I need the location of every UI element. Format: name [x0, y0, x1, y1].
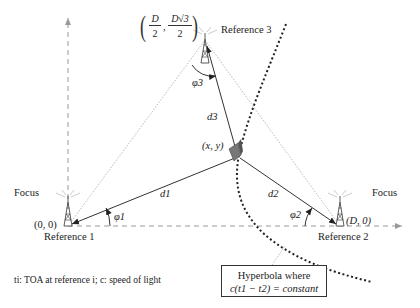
reference-1-coord: (0, 0)	[34, 220, 57, 231]
paren-right: )	[192, 11, 198, 41]
angle-phi2-label: φ2	[290, 210, 301, 221]
reference-3-label: Reference 3	[221, 25, 271, 36]
diagram-canvas	[0, 0, 420, 308]
focus-label-right: Focus	[372, 188, 397, 199]
mobile-device-icon	[229, 139, 243, 161]
distance-d3-label: d3	[207, 112, 218, 123]
angle-phi3-label: φ3	[192, 78, 203, 89]
distance-d3-line	[207, 46, 236, 150]
distance-d2-label: d2	[268, 189, 279, 200]
distance-d1-label: d1	[160, 189, 171, 200]
distance-d1-line	[72, 158, 235, 224]
fraction-bar	[168, 25, 192, 26]
hyperbola-caption-line1: Hyperbola where	[222, 269, 326, 282]
mobile-position-label: (x, y)	[202, 141, 224, 152]
paren-left: (	[140, 11, 146, 41]
angle-phi1-label: φ1	[114, 212, 125, 223]
ref3-y-denominator: 2	[167, 28, 193, 39]
focus-label-left: Focus	[14, 188, 39, 199]
fraction-bar	[149, 25, 161, 26]
box-pointer	[272, 246, 285, 265]
hyperbola-caption-line2: c(t1 − t2) = constant	[222, 282, 326, 295]
ref3-y-numerator: D√3	[167, 13, 193, 24]
comma: ,	[163, 22, 166, 33]
ref3-x-numerator: D	[148, 13, 162, 24]
reference-2-coord: (D, 0)	[346, 216, 371, 227]
distance-d2-line	[240, 158, 336, 224]
footnote: ti: TOA at reference i; c: speed of ligh…	[14, 276, 161, 286]
angle-phi1-arc	[106, 208, 110, 226]
reference-2-label: Reference 2	[318, 232, 368, 243]
hyperbola-caption-box: Hyperbola where c(t1 − t2) = constant	[221, 265, 327, 297]
angle-phi2-arc	[305, 208, 312, 226]
ref3-x-denominator: 2	[148, 28, 162, 39]
reference-1-label: Reference 1	[44, 232, 94, 243]
hyperbola-curve	[237, 24, 372, 282]
